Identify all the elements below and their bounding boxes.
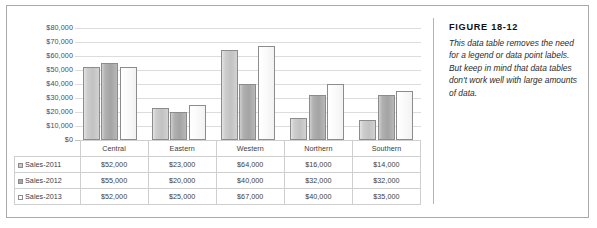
bar xyxy=(221,50,238,140)
caption-text: This data table removes the need for a l… xyxy=(449,37,577,99)
series-name: Sales-2013 xyxy=(25,192,62,201)
series-name: Sales-2012 xyxy=(25,176,62,185)
bar-group xyxy=(213,28,282,140)
bar-group xyxy=(144,28,213,140)
series-color-swatch-icon xyxy=(18,163,23,168)
bar xyxy=(101,63,118,140)
figure-number: FIGURE 18-12 xyxy=(449,22,577,32)
y-axis-tick-labels: $80,000$70,000$60,000$50,000$40,000$30,0… xyxy=(7,21,73,143)
chart-block: $80,000$70,000$60,000$50,000$40,000$30,0… xyxy=(7,6,433,219)
bar xyxy=(189,105,206,140)
table-column-header: Central xyxy=(80,141,148,157)
table-row: Sales-2013$52,000$25,000$67,000$40,000$3… xyxy=(15,189,421,205)
table-cell: $52,000 xyxy=(80,189,148,205)
series-color-swatch-icon xyxy=(18,195,23,200)
bar-group xyxy=(283,28,352,140)
bar xyxy=(290,118,307,140)
bar xyxy=(396,91,413,140)
y-axis-tick-label: $40,000 xyxy=(7,80,73,88)
figure-caption: FIGURE 18-12 This data table removes the… xyxy=(449,22,577,99)
bar xyxy=(152,108,169,140)
table-row-header: Sales-2011 xyxy=(15,157,81,173)
chart-data-table: CentralEasternWesternNorthernSouthern Sa… xyxy=(14,140,421,205)
table-cell: $32,000 xyxy=(352,173,420,189)
table-cell: $16,000 xyxy=(284,157,352,173)
bar xyxy=(120,67,137,140)
table-cell: $67,000 xyxy=(216,189,284,205)
table-column-header: Southern xyxy=(352,141,420,157)
table-cell: $20,000 xyxy=(148,173,216,189)
table-row-header: Sales-2012 xyxy=(15,173,81,189)
bar-groups xyxy=(75,28,421,140)
table-corner-cell xyxy=(15,141,81,157)
table-column-header: Northern xyxy=(284,141,352,157)
y-axis-tick-label: $20,000 xyxy=(7,108,73,116)
table-cell: $32,000 xyxy=(284,173,352,189)
y-axis-tick-label: $10,000 xyxy=(7,122,73,130)
bar xyxy=(359,120,376,140)
bar-group xyxy=(75,28,144,140)
table-row: Sales-2012$55,000$20,000$40,000$32,000$3… xyxy=(15,173,421,189)
series-color-swatch-icon xyxy=(18,179,23,184)
bar xyxy=(258,46,275,140)
table-row-header: Sales-2013 xyxy=(15,189,81,205)
table-cell: $25,000 xyxy=(148,189,216,205)
table-column-header: Eastern xyxy=(148,141,216,157)
table-body: Sales-2011$52,000$23,000$64,000$16,000$1… xyxy=(15,157,421,205)
table-cell: $14,000 xyxy=(352,157,420,173)
table-cell: $52,000 xyxy=(80,157,148,173)
y-axis-tick-label: $70,000 xyxy=(7,38,73,46)
table-header-row: CentralEasternWesternNorthernSouthern xyxy=(15,141,421,157)
table-cell: $40,000 xyxy=(284,189,352,205)
y-axis-tick-label: $60,000 xyxy=(7,52,73,60)
bar xyxy=(239,84,256,140)
table-row: Sales-2011$52,000$23,000$64,000$16,000$1… xyxy=(15,157,421,173)
table-cell: $23,000 xyxy=(148,157,216,173)
y-axis-tick-label: $30,000 xyxy=(7,94,73,102)
vertical-divider xyxy=(433,18,434,204)
bar xyxy=(170,112,187,140)
bar xyxy=(309,95,326,140)
table-cell: $40,000 xyxy=(216,173,284,189)
table-cell: $55,000 xyxy=(80,173,148,189)
bar-group xyxy=(352,28,421,140)
table-cell: $64,000 xyxy=(216,157,284,173)
y-axis-tick-label: $50,000 xyxy=(7,66,73,74)
table-cell: $35,000 xyxy=(352,189,420,205)
y-axis-tick-label: $80,000 xyxy=(7,24,73,32)
figure-page: $80,000$70,000$60,000$50,000$40,000$30,0… xyxy=(6,5,589,218)
plot-area xyxy=(75,28,421,140)
bar xyxy=(327,84,344,140)
bar xyxy=(378,95,395,140)
series-name: Sales-2011 xyxy=(25,160,61,169)
bar xyxy=(83,67,100,140)
table-column-header: Western xyxy=(216,141,284,157)
